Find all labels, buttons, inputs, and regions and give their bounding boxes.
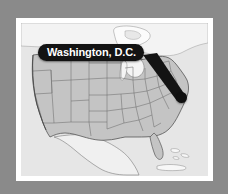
callout-leader-line xyxy=(141,53,197,105)
callout-label: Washington, D.C. xyxy=(38,44,144,61)
locator-map-figure: Washington, D.C. xyxy=(0,0,228,194)
map-marker-dot xyxy=(176,92,187,103)
map-viewport: Washington, D.C. xyxy=(21,23,208,176)
photo-frame: Washington, D.C. xyxy=(16,18,213,181)
